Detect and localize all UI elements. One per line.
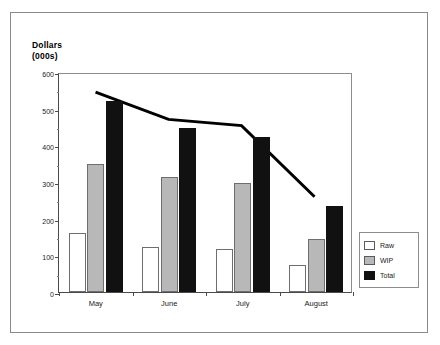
y-axis-tick-label: 300: [42, 181, 54, 188]
y-axis-minor-tick: [57, 276, 60, 277]
y-axis-minor-tick: [57, 166, 60, 167]
y-axis-title: Dollars (000s): [32, 40, 62, 62]
y-axis-tick: [55, 111, 59, 112]
y-axis-tick-label: 100: [42, 254, 54, 261]
bar-august-raw: [289, 265, 306, 292]
legend-swatch-wip-icon: [364, 256, 375, 265]
plot-inner: 0100200300400500600MayJuneJulyAugust: [59, 74, 351, 292]
x-axis-tick: [353, 292, 354, 296]
y-axis-minor-tick: [57, 92, 60, 93]
y-axis-tick: [55, 257, 59, 258]
bar-may-wip: [87, 164, 104, 292]
bar-august-wip: [308, 239, 325, 292]
y-axis-minor-tick: [57, 129, 60, 130]
bar-june-total: [179, 128, 196, 292]
bar-july-wip: [234, 183, 251, 292]
bar-may-total: [106, 101, 123, 292]
legend-swatch-raw-icon: [364, 241, 375, 250]
bar-june-raw: [142, 247, 159, 292]
y-axis-title-line-1: Dollars: [32, 40, 62, 51]
x-axis-tick: [59, 292, 60, 296]
legend-label-wip: WIP: [380, 257, 393, 264]
bar-august-total: [326, 206, 343, 292]
bar-july-raw: [216, 249, 233, 292]
x-axis-tick: [133, 292, 134, 296]
x-axis-tick: [206, 292, 207, 296]
y-axis-tick-label: 200: [42, 217, 54, 224]
plot-area: 0100200300400500600MayJuneJulyAugust: [58, 73, 352, 293]
legend-label-total: Total: [380, 272, 395, 279]
y-axis-tick-label: 400: [42, 144, 54, 151]
chart-legend: RawWIPTotal: [359, 232, 419, 288]
y-axis-minor-tick: [57, 202, 60, 203]
y-axis-tick-label: 0: [50, 291, 54, 298]
bar-june-wip: [161, 177, 178, 292]
y-axis-tick: [55, 74, 59, 75]
x-axis-tick-label-august: August: [305, 299, 328, 308]
y-axis-tick: [55, 147, 59, 148]
bar-chart-figure: Dollars (000s) 0100200300400500600MayJun…: [0, 0, 440, 345]
chart-screenshot: Dollars (000s) 0100200300400500600MayJun…: [0, 0, 440, 345]
legend-item-wip[interactable]: WIP: [364, 253, 414, 268]
y-axis-title-line-2: (000s): [32, 51, 62, 62]
bar-may-raw: [69, 233, 86, 292]
x-axis-tick: [280, 292, 281, 296]
y-axis-tick-label: 600: [42, 71, 54, 78]
y-axis-tick: [55, 184, 59, 185]
y-axis-tick: [55, 221, 59, 222]
trend-polyline: [96, 92, 315, 197]
legend-item-total[interactable]: Total: [364, 268, 414, 283]
y-axis-tick-label: 500: [42, 107, 54, 114]
y-axis-minor-tick: [57, 239, 60, 240]
legend-label-raw: Raw: [380, 242, 394, 249]
legend-swatch-total-icon: [364, 271, 375, 280]
x-axis-tick-label-july: July: [236, 299, 249, 308]
legend-item-raw[interactable]: Raw: [364, 238, 414, 253]
x-axis-tick-label-june: June: [161, 299, 177, 308]
bar-july-total: [253, 137, 270, 292]
x-axis-tick-label-may: May: [89, 299, 103, 308]
